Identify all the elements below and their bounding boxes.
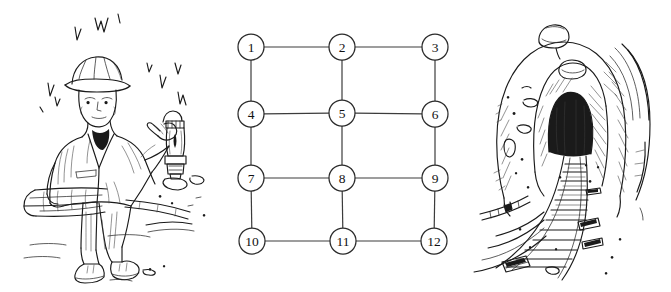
graph-node-3[interactable]: 3	[422, 34, 448, 60]
graph-node-label-8: 8	[339, 171, 346, 186]
graph-node-label-2: 2	[339, 40, 346, 55]
miner-boots	[75, 261, 139, 283]
graph-node-label-9: 9	[432, 171, 439, 186]
graph-node-11[interactable]: 11	[330, 228, 356, 254]
graph-node-2[interactable]: 2	[329, 34, 355, 60]
miner-svg	[0, 0, 225, 292]
graph-edge-7-10	[251, 191, 252, 228]
ground-details	[24, 176, 205, 281]
water-drips-group	[40, 14, 186, 112]
graph-node-label-1: 1	[248, 40, 255, 55]
graph-node-label-12: 12	[427, 234, 441, 249]
floor-debris	[502, 188, 621, 275]
grid-graph-svg: 123456789101112	[225, 0, 460, 292]
graph-node-8[interactable]: 8	[329, 165, 355, 191]
graph-node-9[interactable]: 9	[422, 165, 448, 191]
timber-planks	[24, 188, 190, 219]
graph-node-4[interactable]: 4	[238, 101, 264, 127]
tunnel-svg	[460, 0, 671, 292]
lantern-group	[147, 111, 186, 179]
grid-graph: 123456789101112	[225, 0, 460, 292]
graph-node-10[interactable]: 10	[239, 228, 265, 254]
graph-node-label-6: 6	[432, 107, 439, 122]
graph-node-7[interactable]: 7	[238, 165, 264, 191]
rail-track	[496, 156, 588, 280]
graph-node-label-4: 4	[248, 107, 255, 122]
tunnel-dark-opening	[548, 92, 592, 156]
graph-node-1[interactable]: 1	[238, 34, 264, 60]
miner-jacket	[47, 134, 169, 207]
graph-edge-5-6	[355, 113, 422, 114]
graph-edge-4-5	[264, 113, 329, 114]
graph-node-6[interactable]: 6	[422, 101, 448, 127]
miner-collar	[82, 121, 117, 150]
graph-edges-group	[251, 47, 435, 241]
tunnel-illustration	[460, 0, 671, 292]
graph-node-label-7: 7	[248, 171, 255, 186]
graph-node-label-5: 5	[339, 106, 346, 121]
miner-trousers	[81, 203, 131, 264]
graph-node-label-3: 3	[432, 40, 439, 55]
graph-node-label-11: 11	[337, 234, 350, 249]
figure-root: 123456789101112	[0, 0, 671, 292]
graph-node-12[interactable]: 12	[421, 228, 447, 254]
miner-face	[79, 90, 117, 127]
graph-node-5[interactable]: 5	[329, 100, 355, 126]
graph-edge-8-11	[342, 191, 343, 228]
miner-illustration	[0, 0, 225, 292]
graph-edge-9-12	[434, 191, 435, 228]
graph-node-label-10: 10	[245, 234, 259, 249]
floor-pipe	[480, 196, 530, 220]
hard-hat	[65, 57, 130, 92]
